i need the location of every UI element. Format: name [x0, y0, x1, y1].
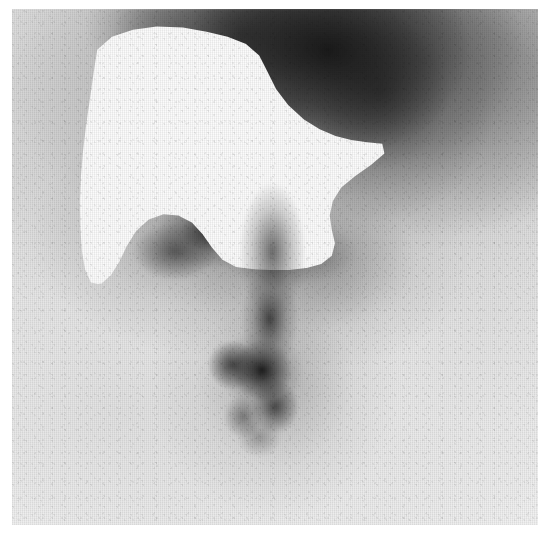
scintigram-image: Scintigram — [12, 9, 538, 525]
central-focal-hot-spot — [12, 9, 538, 525]
screenshot-root: Scintigram — [0, 0, 550, 535]
image-caption — [0, 0, 1, 1]
